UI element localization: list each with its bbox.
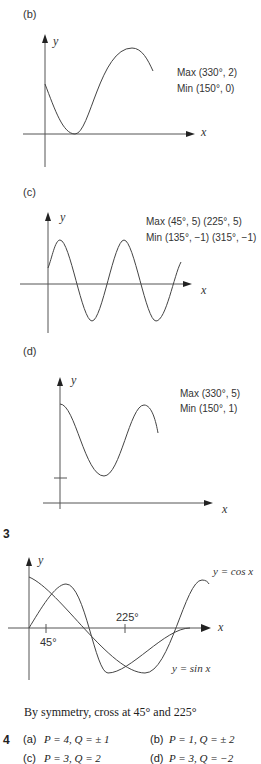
- cos-curve: [29, 577, 209, 673]
- part-c-label: (c): [23, 186, 36, 198]
- y-axis-label: y: [60, 210, 65, 225]
- x-axis-label: x: [218, 620, 223, 635]
- x-axis-label: x: [222, 502, 227, 517]
- question-3-number: 3: [3, 527, 10, 541]
- question-4-number: 4: [3, 733, 10, 747]
- x-axis-label: x: [201, 283, 206, 298]
- min-annotation: Min (135°, −1) (315°, −1): [146, 230, 256, 245]
- y-axis-arrow-icon: [57, 377, 63, 386]
- x-axis-arrow-icon: [204, 500, 213, 506]
- y-axis-arrow-icon: [42, 34, 48, 43]
- answer-b-label: (b): [150, 733, 163, 745]
- part-d-label: (d): [23, 345, 36, 357]
- curve-c: [48, 240, 181, 321]
- x-axis-label: x: [201, 125, 206, 140]
- answer-a-text: P = 4, Q = ± 1: [44, 733, 110, 745]
- answer-d-label: (d): [150, 752, 163, 764]
- answer-c-text: P = 3, Q = 2: [44, 752, 101, 764]
- symmetry-conclusion: By symmetry, cross at 45° and 225°: [24, 705, 196, 720]
- min-annotation: Min (150°, 0): [177, 81, 234, 96]
- max-annotation: Max (45°, 5) (225°, 5): [146, 214, 242, 229]
- graph-b: [23, 34, 195, 167]
- tick-label-45: 45°: [40, 635, 57, 650]
- min-annotation: Min (150°, 1): [180, 401, 237, 416]
- sin-label: y = sin x: [172, 662, 210, 674]
- x-axis-arrow-icon: [183, 281, 192, 287]
- y-axis-arrow-icon: [45, 212, 51, 221]
- answer-b-text: P = 1, Q = ± 2: [169, 733, 235, 745]
- y-axis-label: y: [38, 553, 43, 568]
- x-axis-arrow-icon: [201, 624, 211, 632]
- answer-d-text: P = 3, Q = −2: [169, 752, 233, 764]
- part-b-label: (b): [23, 8, 36, 20]
- curve-b: [45, 48, 153, 134]
- tick-label-225: 225°: [116, 610, 139, 625]
- y-axis-label: y: [53, 34, 58, 49]
- y-axis-arrow-icon: [26, 557, 32, 566]
- max-annotation: Max (330°, 2): [177, 65, 237, 80]
- max-annotation: Max (330°, 5): [180, 386, 240, 401]
- answer-a-label: (a): [23, 733, 36, 745]
- cos-label: y = cos x: [213, 565, 253, 577]
- x-axis-arrow-icon: [186, 131, 195, 137]
- y-axis-label: y: [71, 373, 76, 388]
- answer-c-label: (c): [23, 752, 36, 764]
- curve-d: [60, 404, 158, 476]
